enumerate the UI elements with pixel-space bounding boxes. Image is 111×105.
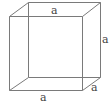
back-face xyxy=(29,3,101,78)
label-depth-edge: a xyxy=(91,81,98,94)
label-top-edge: a xyxy=(51,4,58,17)
cube-diagram: a a a a xyxy=(0,0,111,105)
label-right-edge: a xyxy=(102,33,109,46)
front-face xyxy=(10,17,83,91)
label-bottom-edge: a xyxy=(40,91,47,104)
